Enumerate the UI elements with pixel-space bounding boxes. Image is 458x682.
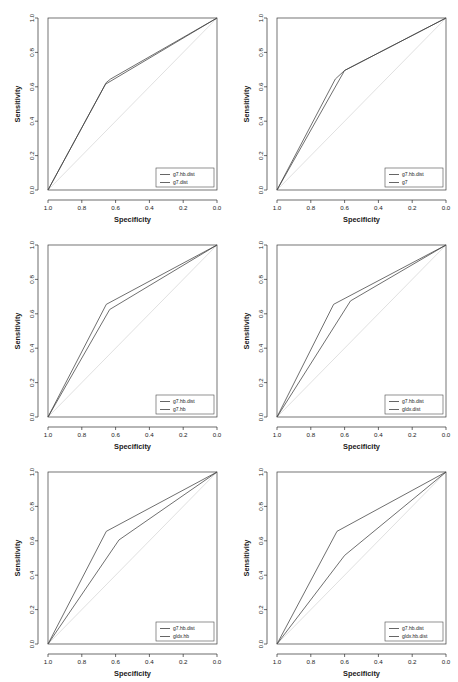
x-tick-label: 0.8 (306, 431, 315, 438)
y-tick-label: 0.8 (257, 502, 264, 511)
x-axis-title: Specificity (343, 215, 381, 224)
y-tick-label: 0.4 (28, 116, 35, 125)
x-tick-label: 0.4 (374, 431, 383, 438)
x-tick-label: 0.4 (145, 658, 154, 665)
x-axis: 1.00.80.60.40.20.0 (44, 427, 222, 438)
x-tick-label: 0.6 (340, 658, 349, 665)
legend-label: g7.hb.dist (173, 171, 195, 177)
x-tick-label: 0.4 (374, 204, 383, 211)
chance-diagonal-line (48, 472, 217, 644)
x-axis-title: Specificity (114, 669, 152, 678)
y-axis-title: Sensitivity (242, 539, 251, 577)
legend: g7.hb.distgldx.hb (156, 622, 214, 641)
y-tick-label: 0.0 (257, 185, 264, 194)
x-tick-label: 0.8 (77, 658, 86, 665)
x-tick-label: 0.2 (179, 431, 188, 438)
roc-panel: 1.00.80.60.40.20.0Specificity0.00.20.40.… (0, 0, 229, 227)
x-tick-label: 0.0 (213, 658, 222, 665)
chance-diagonal-line (48, 18, 217, 190)
legend-label: gldx.dist (402, 406, 421, 412)
x-tick-label: 0.0 (442, 204, 451, 211)
y-tick-label: 1.0 (28, 467, 35, 476)
y-axis-title: Sensitivity (13, 312, 22, 350)
y-tick-label: 0.2 (257, 151, 264, 160)
panel-grid: 1.00.80.60.40.20.0Specificity0.00.20.40.… (0, 0, 458, 682)
y-tick-label: 1.0 (257, 13, 264, 22)
x-tick-label: 0.4 (145, 431, 154, 438)
legend-label: gldx.hb (173, 633, 189, 639)
y-tick-label: 0.6 (257, 536, 264, 545)
y-tick-label: 0.2 (28, 378, 35, 387)
x-tick-label: 1.0 (44, 658, 53, 665)
y-axis: 0.00.20.40.60.81.0 (28, 467, 38, 648)
y-axis-title: Sensitivity (242, 85, 251, 123)
x-tick-label: 0.6 (111, 204, 120, 211)
y-axis: 0.00.20.40.60.81.0 (257, 240, 267, 421)
x-tick-label: 0.4 (374, 658, 383, 665)
x-axis: 1.00.80.60.40.20.0 (273, 200, 451, 211)
x-axis-title: Specificity (114, 442, 152, 451)
roc-figure: 1.00.80.60.40.20.0Specificity0.00.20.40.… (0, 0, 458, 682)
x-axis-title: Specificity (343, 669, 381, 678)
legend-label: g7.hb.dist (402, 625, 424, 631)
y-tick-label: 0.0 (257, 639, 264, 648)
legend: g7.hb.distgldx.hb.dist (385, 622, 443, 641)
x-tick-label: 0.8 (77, 431, 86, 438)
y-tick-label: 0.6 (28, 82, 35, 91)
x-tick-label: 0.8 (306, 658, 315, 665)
y-tick-label: 0.4 (28, 343, 35, 352)
x-tick-label: 0.2 (408, 431, 417, 438)
x-tick-label: 1.0 (273, 204, 282, 211)
x-tick-label: 0.2 (179, 658, 188, 665)
chance-diagonal-line (48, 245, 217, 417)
y-axis: 0.00.20.40.60.81.0 (257, 13, 267, 194)
legend-label: g7.hb.dist (402, 171, 424, 177)
y-axis-title: Sensitivity (13, 539, 22, 577)
y-tick-label: 0.2 (28, 605, 35, 614)
x-tick-label: 0.0 (442, 658, 451, 665)
x-tick-label: 0.2 (408, 204, 417, 211)
x-axis-title: Specificity (343, 442, 381, 451)
y-tick-label: 0.6 (257, 309, 264, 318)
y-tick-label: 0.4 (257, 570, 264, 579)
roc-panel: 1.00.80.60.40.20.0Specificity0.00.20.40.… (0, 227, 229, 454)
x-tick-label: 1.0 (44, 204, 53, 211)
y-axis-title: Sensitivity (13, 85, 22, 123)
x-tick-label: 1.0 (273, 658, 282, 665)
y-tick-label: 0.0 (28, 185, 35, 194)
y-tick-label: 0.8 (257, 275, 264, 284)
y-tick-label: 1.0 (28, 13, 35, 22)
y-tick-label: 0.2 (257, 378, 264, 387)
legend-label: g7.hb.dist (173, 398, 195, 404)
x-tick-label: 0.6 (111, 431, 120, 438)
chance-diagonal-line (277, 18, 446, 190)
legend-label: gldx.hb.dist (402, 633, 428, 639)
y-tick-label: 0.8 (28, 275, 35, 284)
x-tick-label: 0.4 (145, 204, 154, 211)
y-tick-label: 0.6 (257, 82, 264, 91)
x-tick-label: 1.0 (44, 431, 53, 438)
y-tick-label: 0.8 (28, 48, 35, 57)
y-tick-label: 0.2 (28, 151, 35, 160)
roc-panel: 1.00.80.60.40.20.0Specificity0.00.20.40.… (229, 0, 458, 227)
legend: g7.hb.distgldx.dist (385, 395, 443, 414)
legend: g7.hb.distg7.dist (156, 168, 214, 187)
y-tick-label: 1.0 (28, 240, 35, 249)
x-tick-label: 0.0 (442, 431, 451, 438)
y-tick-label: 0.4 (257, 116, 264, 125)
y-tick-label: 0.0 (257, 412, 264, 421)
x-tick-label: 0.0 (213, 431, 222, 438)
legend: g7.hb.distg7 (385, 168, 443, 187)
roc-panel: 1.00.80.60.40.20.0Specificity0.00.20.40.… (229, 454, 458, 681)
x-tick-label: 0.6 (340, 204, 349, 211)
y-tick-label: 1.0 (257, 467, 264, 476)
y-tick-label: 0.0 (28, 412, 35, 421)
chance-diagonal-line (277, 472, 446, 644)
x-axis: 1.00.80.60.40.20.0 (44, 654, 222, 665)
y-axis: 0.00.20.40.60.81.0 (28, 13, 38, 194)
y-tick-label: 0.8 (257, 48, 264, 57)
y-axis-title: Sensitivity (242, 312, 251, 350)
y-tick-label: 1.0 (257, 240, 264, 249)
x-tick-label: 0.8 (77, 204, 86, 211)
legend-label: g7.dist (173, 179, 188, 185)
